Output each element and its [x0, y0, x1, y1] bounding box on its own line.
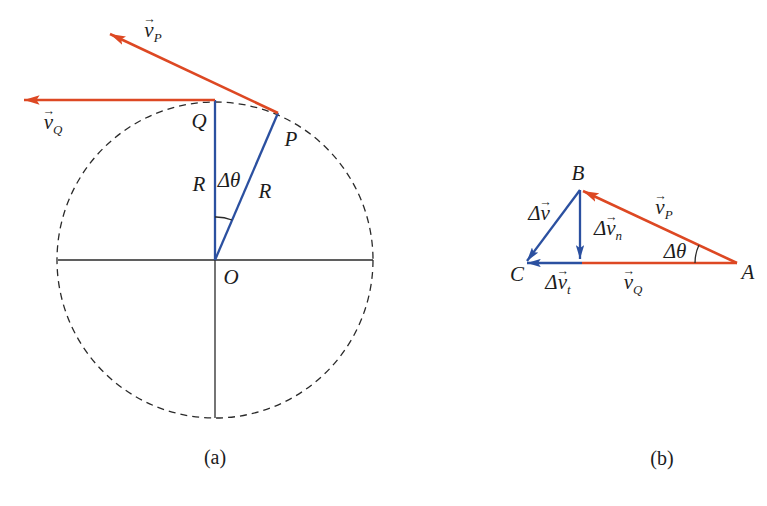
label-vq-a: →vQ — [44, 112, 63, 133]
label-point-b: B — [572, 163, 585, 184]
figure-circular-motion: →vP →vQ Q P R Δθ R O (a) B Δ→v Δ→vn →vP … — [0, 0, 767, 506]
vector-arrow-glyph: → — [557, 264, 570, 277]
label-point-c: C — [510, 264, 524, 285]
vector-arrow-glyph: → — [654, 189, 667, 202]
vector-v: →v — [624, 272, 633, 293]
vector-v: →v — [541, 203, 550, 224]
vector-arrow-glyph: → — [622, 264, 635, 277]
vector-v: →v — [44, 112, 53, 133]
label-delta-vn: Δ→vn — [594, 218, 622, 239]
vector-arrow-glyph: → — [605, 210, 618, 223]
label-radius-right: R — [259, 181, 272, 202]
vector-arrow-glyph: → — [539, 195, 552, 208]
label-point-a: A — [742, 262, 755, 283]
angle-arc-b — [695, 245, 699, 263]
angle-arc-a — [215, 217, 232, 220]
vector-v: →v — [558, 272, 567, 293]
caption-a: (a) — [204, 447, 226, 467]
vector-v: →v — [655, 197, 664, 218]
vector-arrow-glyph: → — [143, 12, 156, 25]
label-vp-a: →vP — [144, 20, 161, 41]
label-delta-theta-a: Δθ — [218, 170, 241, 191]
diagram-svg — [0, 0, 767, 506]
label-delta-vt: Δ→vt — [545, 272, 570, 293]
caption-b: (b) — [650, 448, 673, 468]
label-vq-b: →vQ — [624, 272, 643, 293]
label-delta-v: Δ→v — [528, 203, 550, 224]
vector-arrow-glyph: → — [42, 104, 55, 117]
label-vp-b: →vP — [655, 197, 672, 218]
label-delta-theta-b: Δθ — [664, 241, 687, 262]
label-radius-left: R — [193, 174, 206, 195]
label-point-q: Q — [191, 111, 206, 132]
vector-v: →v — [144, 20, 153, 41]
label-center-o: O — [223, 267, 238, 288]
label-point-p: P — [285, 129, 298, 150]
vector-v: →v — [606, 218, 615, 239]
